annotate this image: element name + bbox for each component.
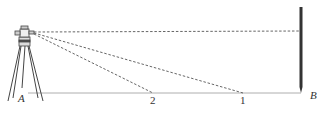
label-A: A xyxy=(17,92,25,104)
label-2: 2 xyxy=(150,94,156,106)
sight-lines xyxy=(34,31,301,93)
label-1: 1 xyxy=(240,94,246,106)
label-B: B xyxy=(310,89,317,101)
sight-line-horizontal xyxy=(34,31,301,32)
theodolite-icon xyxy=(15,26,34,46)
sight-line-point-2 xyxy=(34,34,153,93)
survey-diagram: A 2 1 B xyxy=(0,0,323,122)
sight-line-point-1 xyxy=(34,33,243,93)
leveling-rod-icon xyxy=(300,7,303,93)
